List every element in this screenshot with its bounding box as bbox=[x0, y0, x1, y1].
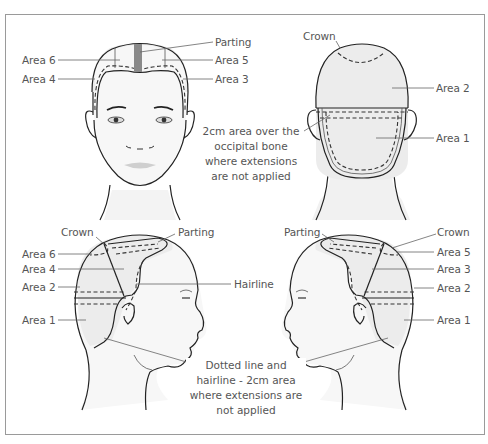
occipital-note: 2cm area over the occipital bone where e… bbox=[196, 124, 306, 184]
front-label-area6: Area 6 bbox=[22, 54, 56, 66]
hairline-note: Dotted line and hairline - 2cm area wher… bbox=[186, 358, 306, 418]
right-profile-label-area1: Area 1 bbox=[437, 314, 471, 326]
left-profile-label-area4: Area 4 bbox=[22, 263, 56, 275]
front-head-view bbox=[86, 43, 195, 220]
left-profile-label-area6: Area 6 bbox=[22, 248, 56, 260]
hairline-label: Hairline bbox=[231, 278, 277, 290]
back-head-view bbox=[308, 44, 417, 220]
hairline-note-line-2: hairline - 2cm area bbox=[186, 373, 306, 388]
right-profile-label-crown: Crown bbox=[437, 226, 470, 238]
front-label-area4: Area 4 bbox=[22, 73, 56, 85]
occipital-note-line-3: where extensions bbox=[196, 154, 306, 169]
front-label-parting: Parting bbox=[215, 36, 251, 48]
left-profile-label-area2: Area 2 bbox=[22, 281, 56, 293]
back-label-crown: Crown bbox=[303, 30, 336, 42]
back-label-area1: Area 1 bbox=[436, 132, 470, 144]
back-label-area2: Area 2 bbox=[436, 82, 470, 94]
hairline-note-line-4: not applied bbox=[186, 403, 306, 418]
right-profile-label-area5: Area 5 bbox=[437, 246, 471, 258]
front-label-area3: Area 3 bbox=[215, 73, 249, 85]
right-profile-label-area2: Area 2 bbox=[437, 282, 471, 294]
right-profile-label-parting: Parting bbox=[284, 226, 320, 238]
occipital-note-line-1: 2cm area over the bbox=[196, 124, 306, 139]
front-label-area5: Area 5 bbox=[215, 54, 249, 66]
hairline-note-line-1: Dotted line and bbox=[186, 358, 306, 373]
hairline-note-line-3: where extensions are bbox=[186, 388, 306, 403]
occipital-note-line-2: occipital bone bbox=[196, 139, 306, 154]
left-profile-label-crown: Crown bbox=[61, 226, 94, 238]
left-profile-label-parting: Parting bbox=[178, 226, 214, 238]
occipital-note-line-4: are not applied bbox=[196, 169, 306, 184]
left-profile-label-area1: Area 1 bbox=[22, 314, 56, 326]
right-profile-label-area3: Area 3 bbox=[437, 263, 471, 275]
